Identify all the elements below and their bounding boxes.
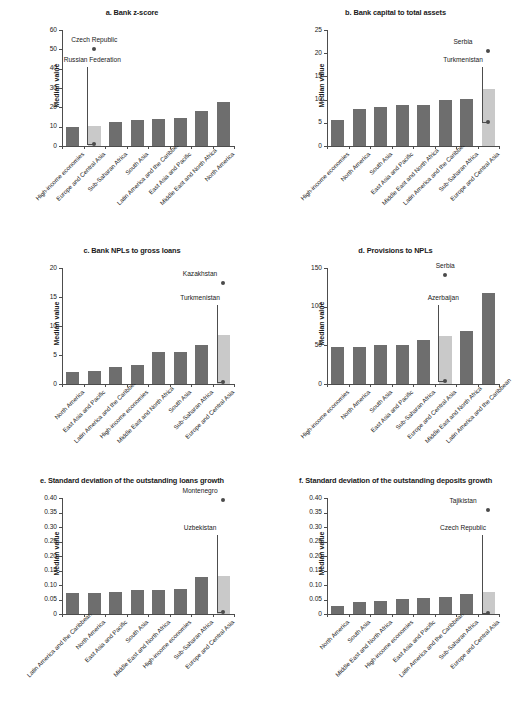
y-tick-mark xyxy=(59,127,62,128)
bar-c-0 xyxy=(66,372,79,384)
y-tick-label: 0.25 xyxy=(289,538,322,545)
y-tick-label: 0.10 xyxy=(24,582,57,589)
chart-panel-c: c. Bank NPLs to gross loansMedian value0… xyxy=(0,238,264,468)
bar-e-3 xyxy=(131,590,144,614)
bar-d-6 xyxy=(460,331,473,384)
x-tick-mark xyxy=(148,146,149,149)
bar-c-6 xyxy=(195,345,208,384)
y-tick-label: 20 xyxy=(289,50,322,57)
x-tick-mark xyxy=(392,146,393,149)
x-tick-mark xyxy=(456,614,457,617)
bar-b-3 xyxy=(396,105,409,146)
annotation-leader-hook-c-1 xyxy=(217,382,223,383)
x-tick-mark xyxy=(84,146,85,149)
bar-f-2 xyxy=(374,601,387,614)
y-tick-mark xyxy=(324,53,327,54)
bar-a-2 xyxy=(109,122,122,146)
x-tick-mark xyxy=(148,384,149,387)
y-tick-mark xyxy=(324,268,327,269)
x-tick-mark xyxy=(148,614,149,617)
y-tick-label: 40 xyxy=(24,65,57,72)
annotation-leader-hook-d-1 xyxy=(438,381,445,382)
bar-b-0 xyxy=(331,120,344,146)
y-tick-mark xyxy=(324,345,327,346)
bar-d-0 xyxy=(331,347,344,384)
y-tick-label: 20 xyxy=(24,104,57,111)
x-tick-mark xyxy=(327,384,328,387)
y-tick-label: 0.15 xyxy=(289,567,322,574)
x-tick-mark xyxy=(349,146,350,149)
bar-e-0 xyxy=(66,593,79,614)
y-tick-label: 15 xyxy=(289,73,322,80)
x-tick-mark xyxy=(105,146,106,149)
panel-title-b: b. Bank capital to total assets xyxy=(264,8,527,17)
annotation-leader-hook-b-1 xyxy=(482,122,488,123)
y-tick-label: 0.40 xyxy=(289,495,322,502)
chart-panel-d: d. Provisions to NPLsMedian value0501001… xyxy=(264,238,527,468)
y-tick-mark xyxy=(59,107,62,108)
y-tick-label: 150 xyxy=(289,265,322,272)
y-tick-mark xyxy=(324,76,327,77)
figure-six-panel-bank-indicators: a. Bank z-scoreMedian value0102030405060… xyxy=(0,0,527,712)
y-tick-mark xyxy=(324,571,327,572)
annotation-label-c-1: Turkmenistan xyxy=(140,294,260,301)
x-tick-mark xyxy=(105,384,106,387)
y-tick-label: 10 xyxy=(289,96,322,103)
annotation-dot-f-0 xyxy=(486,508,490,512)
x-tick-mark xyxy=(234,146,235,149)
annotation-leader-line-c-1 xyxy=(217,305,218,382)
annotation-label-f-0: Tajikistan xyxy=(403,497,523,504)
bar-f-5 xyxy=(439,597,452,614)
bar-d-1 xyxy=(353,347,366,384)
y-tick-mark xyxy=(59,513,62,514)
bar-a-0 xyxy=(66,127,79,146)
y-tick-mark xyxy=(59,527,62,528)
x-tick-mark xyxy=(478,146,479,149)
y-tick-label: 60 xyxy=(24,27,57,34)
x-tick-mark xyxy=(105,614,106,617)
bar-e-4 xyxy=(152,590,165,614)
bar-a-6 xyxy=(195,111,208,146)
y-tick-label: 0 xyxy=(289,143,322,150)
panel-title-f: f. Standard deviation of the outstanding… xyxy=(264,476,527,485)
x-tick-mark xyxy=(62,614,63,617)
bar-f-3 xyxy=(396,599,409,614)
x-tick-mark xyxy=(191,146,192,149)
annotation-leader-line-e-1 xyxy=(217,535,218,612)
chart-panel-f: f. Standard deviation of the outstanding… xyxy=(264,468,527,712)
y-tick-mark xyxy=(324,30,327,31)
annotation-leader-line-f-1 xyxy=(482,535,483,613)
x-tick-mark xyxy=(413,614,414,617)
bar-c-4 xyxy=(152,352,165,384)
y-tick-mark xyxy=(324,513,327,514)
y-tick-mark xyxy=(324,542,327,543)
y-tick-mark xyxy=(324,527,327,528)
bar-f-4 xyxy=(417,598,430,614)
annotation-leader-line-d-1 xyxy=(438,305,439,381)
annotation-leader-hook-a-1 xyxy=(87,144,94,145)
x-tick-mark xyxy=(478,614,479,617)
x-tick-mark xyxy=(370,614,371,617)
bar-b-2 xyxy=(374,107,387,146)
bar-b-7 xyxy=(482,89,495,146)
y-tick-label: 0.20 xyxy=(24,553,57,560)
annotation-dot-b-0 xyxy=(486,49,490,53)
x-tick-mark xyxy=(499,384,500,387)
x-tick-mark xyxy=(499,146,500,149)
y-axis-line-a xyxy=(62,30,63,146)
x-tick-mark xyxy=(170,384,171,387)
x-tick-mark xyxy=(413,384,414,387)
panel-title-a: a. Bank z-score xyxy=(0,8,264,17)
bar-d-7 xyxy=(482,293,495,384)
x-tick-mark xyxy=(435,146,436,149)
x-tick-mark xyxy=(499,614,500,617)
annotation-label-f-1: Czech Republic xyxy=(403,524,523,531)
bar-c-7 xyxy=(217,335,230,384)
y-tick-label: 0 xyxy=(24,381,57,388)
y-axis-line-f xyxy=(327,498,328,614)
y-tick-label: 25 xyxy=(289,27,322,34)
x-tick-mark xyxy=(84,614,85,617)
x-tick-mark xyxy=(327,614,328,617)
x-tick-mark xyxy=(413,146,414,149)
x-tick-mark xyxy=(62,146,63,149)
